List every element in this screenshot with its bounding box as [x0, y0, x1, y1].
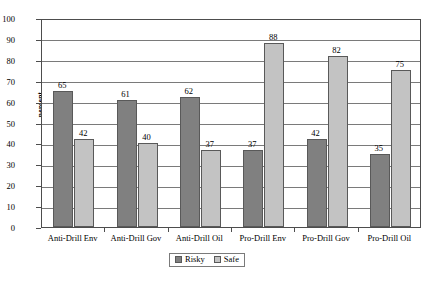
bar-value-label: 42 [300, 129, 332, 138]
bar-risky-3 [243, 150, 263, 227]
gridline [42, 187, 420, 188]
x-category-label: Pro-Drill Env [231, 234, 294, 243]
bar-value-label: 35 [363, 144, 395, 153]
chart-legend: RiskySafe [169, 253, 245, 267]
legend-item-risky[interactable]: Risky [175, 255, 205, 264]
bar-value-label: 75 [384, 60, 416, 69]
bar-value-label: 82 [321, 46, 353, 55]
y-tick-label: 10 [0, 203, 15, 212]
x-category-label: Anti-Drill Gov [104, 234, 167, 243]
gridline [42, 166, 420, 167]
bar-safe-2 [201, 150, 221, 227]
x-tick-mark [168, 228, 169, 232]
x-tick-mark [294, 228, 295, 232]
gridline [42, 208, 420, 209]
x-tick-mark [104, 228, 105, 232]
legend-label: Risky [185, 255, 205, 264]
x-tick-mark [358, 228, 359, 232]
bar-risky-4 [307, 139, 327, 227]
bar-risky-2 [180, 97, 200, 227]
y-tick-label: 60 [0, 99, 15, 108]
bar-risky-0 [53, 91, 73, 227]
bar-value-label: 62 [173, 87, 205, 96]
y-tick-mark [36, 228, 41, 229]
gridline [42, 103, 420, 104]
gridline [42, 124, 420, 125]
bar-value-label: 42 [67, 129, 99, 138]
y-tick-label: 90 [0, 36, 15, 45]
x-category-label: Anti-Drill Oil [168, 234, 231, 243]
y-tick-label: 80 [0, 57, 15, 66]
x-category-label: Pro-Drill Gov [294, 234, 357, 243]
bar-safe-3 [264, 43, 284, 227]
gridline [42, 82, 420, 83]
y-tick-label: 100 [0, 15, 15, 24]
bar-value-label: 40 [131, 133, 163, 142]
legend-swatch-icon [175, 256, 182, 263]
y-tick-label: 70 [0, 78, 15, 87]
bar-value-label: 37 [236, 140, 268, 149]
x-tick-mark [231, 228, 232, 232]
plot-area [41, 19, 421, 228]
bar-safe-4 [328, 56, 348, 227]
gridline [42, 40, 420, 41]
bar-value-label: 65 [46, 81, 78, 90]
bar-risky-1 [117, 100, 137, 227]
y-tick-label: 0 [0, 224, 15, 233]
x-category-label: Pro-Drill Oil [358, 234, 421, 243]
x-category-label: Anti-Drill Env [41, 234, 104, 243]
y-tick-label: 40 [0, 140, 15, 149]
bar-chart: percent 1009080706050403020100 654261406… [0, 0, 437, 281]
y-tick-label: 20 [0, 182, 15, 191]
y-tick-label: 50 [0, 120, 15, 129]
legend-item-safe[interactable]: Safe [214, 255, 239, 264]
bar-safe-0 [74, 139, 94, 227]
bar-value-label: 37 [194, 140, 226, 149]
legend-label: Safe [224, 255, 239, 264]
bar-safe-1 [138, 143, 158, 227]
gridline [42, 61, 420, 62]
bar-value-label: 88 [257, 33, 289, 42]
bar-risky-5 [370, 154, 390, 227]
bar-value-label: 61 [110, 90, 142, 99]
legend-swatch-icon [214, 256, 221, 263]
y-tick-label: 30 [0, 161, 15, 170]
